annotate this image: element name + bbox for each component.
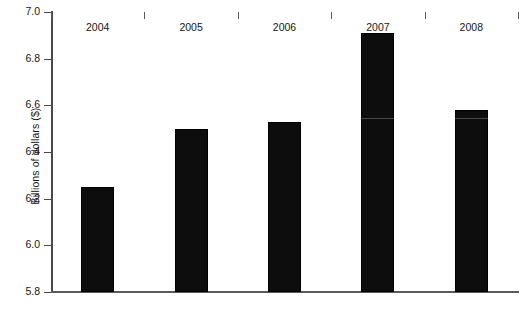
- y-tick-label: 5.8: [25, 285, 40, 297]
- x-tick: [51, 12, 52, 19]
- x-tick-label: 2007: [366, 21, 389, 33]
- x-tick-label: 2005: [179, 21, 202, 33]
- bar: [455, 110, 488, 292]
- scan-artifact-line: [361, 118, 394, 119]
- y-tick: 6.0: [44, 245, 51, 246]
- x-tick: [331, 12, 332, 19]
- x-tick: [144, 12, 145, 19]
- x-tick: [238, 12, 239, 19]
- y-tick: 6.6: [44, 105, 51, 106]
- x-tick-label: 2004: [86, 21, 109, 33]
- x-tick-label: 2006: [273, 21, 296, 33]
- y-tick-label: 6.2: [25, 192, 40, 204]
- y-tick: 6.2: [44, 199, 51, 200]
- x-tick: [425, 12, 426, 19]
- y-tick: 6.8: [44, 59, 51, 60]
- bar: [175, 129, 208, 292]
- plot-area: 5.86.06.26.46.66.87.0 200420052006200720…: [51, 12, 518, 292]
- y-tick: 6.4: [44, 152, 51, 153]
- x-tick-label: 2008: [460, 21, 483, 33]
- y-tick-label: 6.8: [25, 52, 40, 64]
- bar: [81, 187, 114, 292]
- bar: [268, 122, 301, 292]
- y-tick-label: 7.0: [25, 5, 40, 17]
- y-tick-label: 6.0: [25, 238, 40, 250]
- x-tick: [518, 12, 519, 19]
- y-tick-label: 6.6: [25, 98, 40, 110]
- y-tick: 5.8: [44, 292, 51, 293]
- bar-chart: Billions of dollars ($) 5.86.06.26.46.66…: [0, 0, 530, 323]
- bar: [361, 33, 394, 292]
- y-tick: 7.0: [44, 12, 51, 13]
- bottom-caption: [6, 313, 306, 323]
- scan-artifact-line: [455, 118, 488, 119]
- y-tick-label: 6.4: [25, 145, 40, 157]
